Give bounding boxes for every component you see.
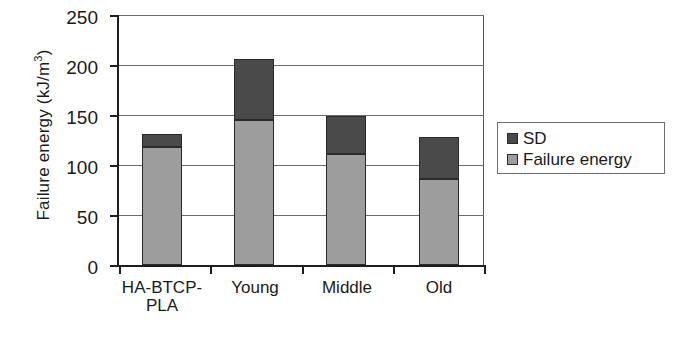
y-tick-label-250: 250 — [66, 8, 98, 27]
bar-segment-failure-energy — [419, 179, 459, 265]
legend-item-sd[interactable]: SD — [507, 128, 664, 149]
bar-segment-failure-energy — [326, 154, 366, 265]
x-tick-0 — [119, 265, 121, 274]
y-tick-100: 100 — [110, 165, 119, 167]
y-tick-0: 0 — [110, 265, 119, 267]
x-axis-label-young: Young — [231, 279, 279, 297]
plot-area: 250 200 150 100 50 0 — [117, 15, 484, 267]
y-tick-label-100: 100 — [66, 158, 98, 177]
gridline-200 — [119, 65, 484, 66]
y-tick-label-0: 0 — [87, 258, 98, 277]
y-axis-title-exponent: 3 — [32, 55, 44, 61]
legend-swatch-sd-icon — [507, 133, 518, 144]
bar-segment-sd — [419, 137, 459, 179]
bar-segment-sd — [142, 134, 182, 147]
legend-label-sd: SD — [523, 130, 547, 147]
x-axis-label-line-1: HA-BTCP- — [122, 279, 202, 297]
x-tick-1 — [210, 265, 212, 274]
y-tick-label-150: 150 — [66, 108, 98, 127]
failure-energy-bar-chart: Failure energy (kJ/m3) 250 200 150 100 5… — [0, 0, 694, 343]
bar-segment-failure-energy — [234, 120, 274, 265]
gridline-250 — [119, 15, 484, 16]
bar-segment-sd — [234, 59, 274, 120]
y-tick-label-50: 50 — [77, 208, 98, 227]
bar-segment-failure-energy — [142, 147, 182, 265]
y-axis-title-main: Failure energy (kJ/m — [34, 62, 53, 221]
plot-frame-right — [483, 15, 484, 265]
y-tick-150: 150 — [110, 115, 119, 117]
x-axis-label-ha-btcp-pla: HA-BTCP- PLA — [122, 279, 202, 315]
x-tick-2 — [302, 265, 304, 274]
legend-item-failure-energy[interactable]: Failure energy — [507, 149, 664, 170]
legend-swatch-failure-energy-icon — [507, 154, 518, 165]
bar-segment-sd — [326, 116, 366, 154]
y-tick-200: 200 — [110, 65, 119, 67]
y-axis-title: Failure energy (kJ/m3) — [34, 5, 54, 265]
y-tick-250: 250 — [110, 15, 119, 17]
y-tick-label-200: 200 — [66, 58, 98, 77]
x-axis-label-middle: Middle — [322, 279, 372, 297]
legend-label-failure-energy: Failure energy — [523, 151, 632, 168]
gridline-150 — [119, 115, 484, 116]
x-axis-label-old: Old — [426, 279, 452, 297]
legend: SD Failure energy — [497, 122, 665, 174]
y-tick-50: 50 — [110, 215, 119, 217]
x-axis-label-line-2: PLA — [122, 297, 202, 315]
x-tick-4 — [484, 265, 486, 274]
y-axis-title-tail: ) — [34, 49, 53, 55]
x-tick-3 — [393, 265, 395, 274]
